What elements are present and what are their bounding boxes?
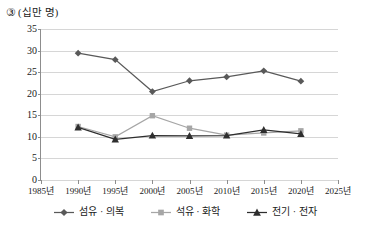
legend-item-2[interactable]: 석유 · 화학	[150, 206, 220, 218]
x-axis-tick-mark	[301, 180, 302, 184]
x-axis-tick-mark	[227, 180, 228, 184]
unit-label: (십만 명)	[18, 7, 58, 18]
x-axis-tick-mark	[152, 180, 153, 184]
x-axis-tick-label: 1985년	[28, 186, 54, 197]
x-axis-tick-mark	[41, 180, 42, 184]
x-axis-tick-mark	[338, 180, 339, 184]
x-axis-tick-mark	[78, 180, 79, 184]
data-point-marker	[260, 67, 267, 74]
x-axis-tick-mark	[115, 180, 116, 184]
x-axis-tick-mark	[264, 180, 265, 184]
x-axis-tick-label: 2010년	[214, 186, 240, 197]
y-axis-tick-label: 15	[27, 110, 37, 120]
legend-label: 석유 · 화학	[176, 206, 220, 218]
legend-item-3[interactable]: 전기 · 전자	[246, 206, 316, 218]
legend-diamond-icon	[53, 207, 75, 218]
legend-square-icon	[150, 207, 172, 218]
x-axis-tick-label: 2020년	[288, 186, 314, 197]
legend-label: 전기 · 전자	[272, 206, 316, 218]
x-axis-tick-label: 2000년	[139, 186, 165, 197]
data-point-marker	[186, 77, 193, 84]
legend-label: 섬유 · 의복	[79, 206, 123, 218]
data-point-marker	[75, 50, 82, 57]
data-point-marker	[260, 126, 267, 133]
y-axis-tick-label: 10	[27, 132, 37, 142]
x-axis-tick-label: 2015년	[251, 186, 277, 197]
data-point-marker	[187, 126, 192, 131]
legend-triangle-icon	[246, 207, 268, 218]
series-line	[78, 53, 301, 91]
chart-legend: 섬유 · 의복석유 · 화학전기 · 전자	[0, 206, 370, 218]
y-axis-tick-label: 20	[27, 89, 37, 99]
series-1	[75, 50, 305, 95]
y-axis-tick-label: 25	[27, 67, 37, 77]
x-axis-tick-mark	[190, 180, 191, 184]
y-axis-tick-label: 5	[32, 153, 37, 163]
data-point-marker	[223, 73, 230, 80]
x-axis-tick-label: 1990년	[65, 186, 91, 197]
line-chart-figure: ③(십만 명) 05101520253035 1985년1990년1995년20…	[0, 0, 370, 236]
legend-item-1[interactable]: 섬유 · 의복	[53, 206, 123, 218]
y-axis-tick-label: 30	[27, 46, 37, 56]
item-number-marker: ③	[6, 6, 16, 18]
x-axis-tick-label: 1995년	[102, 186, 128, 197]
y-axis-tick-label: 35	[27, 24, 37, 34]
chart-caption: ③(십만 명)	[6, 6, 58, 19]
data-point-marker	[150, 113, 155, 118]
series-layer	[41, 29, 338, 180]
x-axis-tick-label: 2025년	[325, 186, 351, 197]
data-point-marker	[297, 78, 304, 85]
x-axis-tick-label: 2005년	[177, 186, 203, 197]
plot-area: 05101520253035 1985년1990년1995년2000년2005년…	[41, 29, 338, 180]
y-axis-tick-label: 0	[32, 175, 37, 185]
